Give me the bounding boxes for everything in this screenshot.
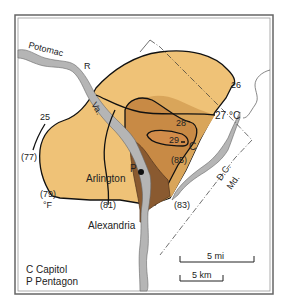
dc-boundary-east: [243, 70, 270, 118]
pentagon-marker: [138, 169, 144, 175]
scale-km-label: 5 km: [192, 271, 212, 280]
legend-pentagon-symbol: P: [26, 276, 33, 287]
isotherm-27-label: 27 °C: [215, 111, 240, 121]
isotherm-81-label: (81): [100, 201, 116, 210]
isotherm-28-label: 28: [176, 119, 186, 128]
legend-capitol-symbol: C: [26, 264, 33, 275]
legend-pentagon: P Pentagon: [26, 277, 78, 287]
legend-pentagon-text: Pentagon: [35, 276, 78, 287]
isotherm-77-label: (77): [21, 153, 37, 162]
isotherm-29-label: 29: [169, 136, 179, 145]
pentagon-label: P: [130, 164, 137, 174]
isotherm-25-label: 25: [40, 113, 50, 122]
scale-miles-label: 5 mi: [207, 252, 224, 261]
isotherm-85-label: (85): [171, 156, 187, 165]
city-arlington-label: Arlington: [86, 174, 125, 184]
isotherm-26-label: 26: [231, 81, 241, 90]
river-suffix-label: R: [84, 62, 91, 71]
heat-island-map: Potomac R Va. D.C. Md. Arlington Alexand…: [0, 0, 286, 307]
city-alexandria-label: Alexandria: [88, 221, 135, 231]
legend-capitol: C Capitol: [26, 265, 67, 275]
isotherm-79-label: (79): [40, 190, 56, 199]
legend-capitol-text: Capitol: [36, 264, 67, 275]
capitol-label: C: [189, 142, 196, 152]
boundary-corner: [140, 40, 150, 52]
isotherm-83-label: (83): [174, 201, 190, 210]
fahrenheit-unit-label: °F: [43, 201, 52, 210]
